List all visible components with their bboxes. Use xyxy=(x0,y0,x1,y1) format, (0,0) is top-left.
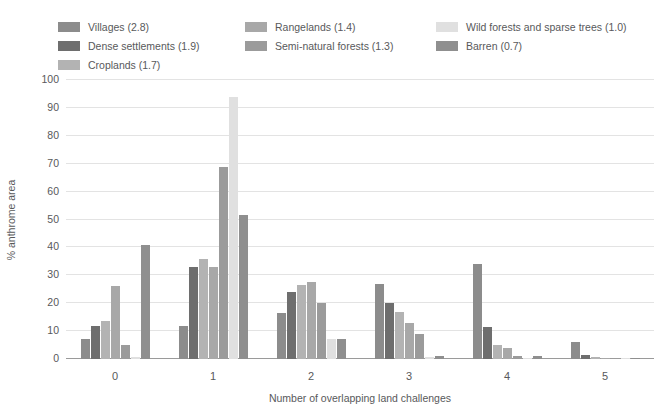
bar xyxy=(581,355,590,359)
bar-chart-figure: Villages (2.8) Dense settlements (1.9) C… xyxy=(0,0,672,416)
legend-label-villages: Villages (2.8) xyxy=(88,21,149,33)
bar xyxy=(141,245,150,359)
x-tick-label: 0 xyxy=(95,370,135,382)
bar-group: 0 xyxy=(66,80,164,359)
bar xyxy=(219,167,228,360)
bar xyxy=(435,356,444,359)
legend-label-wild-forests: Wild forests and sparse trees (1.0) xyxy=(466,21,626,33)
legend-swatch-dense-settlements xyxy=(58,41,80,51)
bar xyxy=(189,267,198,359)
y-tick-label: 100 xyxy=(41,74,59,85)
legend-item-wild-forests: Wild forests and sparse trees (1.0) xyxy=(436,18,626,35)
legend-label-croplands: Croplands (1.7) xyxy=(88,59,160,71)
bar xyxy=(239,215,248,359)
bar xyxy=(621,358,630,359)
legend-swatch-semi-natural-forests xyxy=(245,41,267,51)
bar xyxy=(631,358,640,359)
legend-column-2: Rangelands (1.4) Semi-natural forests (1… xyxy=(245,18,393,56)
x-tick-label: 1 xyxy=(193,370,233,382)
bar xyxy=(405,323,414,359)
legend-item-barren: Barren (0.7) xyxy=(436,37,626,54)
bar xyxy=(297,285,306,359)
bar xyxy=(317,303,326,359)
bar xyxy=(533,356,542,359)
legend-item-dense-settlements: Dense settlements (1.9) xyxy=(58,37,199,54)
legend-swatch-barren xyxy=(436,41,458,51)
legend-label-semi-natural-forests: Semi-natural forests (1.3) xyxy=(275,40,393,52)
bar-group: 3 xyxy=(360,80,458,359)
y-tick-label: 90 xyxy=(47,101,59,112)
legend-column-3: Wild forests and sparse trees (1.0) Barr… xyxy=(436,18,626,56)
legend-column-1: Villages (2.8) Dense settlements (1.9) C… xyxy=(58,18,199,75)
bar xyxy=(121,345,130,359)
legend-swatch-croplands xyxy=(58,60,80,70)
y-tick-label: 70 xyxy=(47,157,59,168)
bar xyxy=(503,348,512,359)
x-tick-label: 4 xyxy=(487,370,527,382)
legend-swatch-rangelands xyxy=(245,22,267,32)
x-tick-label: 3 xyxy=(389,370,429,382)
bar xyxy=(307,282,316,359)
bar xyxy=(523,358,532,359)
y-tick-label: 80 xyxy=(47,129,59,140)
bar-group: 5 xyxy=(556,80,654,359)
bar xyxy=(81,339,90,359)
chart-legend: Villages (2.8) Dense settlements (1.9) C… xyxy=(58,18,658,70)
bar xyxy=(131,357,140,359)
y-tick-label: 30 xyxy=(47,269,59,280)
bar xyxy=(209,267,218,359)
y-tick-label: 60 xyxy=(47,185,59,196)
y-axis-title-text: % anthrome area xyxy=(5,179,17,260)
bar xyxy=(375,284,384,359)
legend-item-rangelands: Rangelands (1.4) xyxy=(245,18,393,35)
bar xyxy=(287,292,296,359)
bar xyxy=(199,259,208,359)
bar xyxy=(483,327,492,359)
y-tick-label: 20 xyxy=(47,297,59,308)
bar xyxy=(101,321,110,359)
bar xyxy=(513,356,522,359)
legend-item-villages: Villages (2.8) xyxy=(58,18,199,35)
y-tick-label: 0 xyxy=(53,353,59,364)
y-tick-label: 10 xyxy=(47,325,59,336)
bar-group: 4 xyxy=(458,80,556,359)
bar xyxy=(91,326,100,359)
bar xyxy=(591,357,600,359)
x-tick-label: 2 xyxy=(291,370,331,382)
bar xyxy=(473,264,482,359)
bar-group: 2 xyxy=(262,80,360,359)
bar xyxy=(229,97,238,359)
x-axis-title: Number of overlapping land challenges xyxy=(66,392,654,404)
bar xyxy=(179,326,188,359)
bar-group: 1 xyxy=(164,80,262,359)
legend-swatch-wild-forests xyxy=(436,22,458,32)
y-tick-label: 50 xyxy=(47,213,59,224)
bar xyxy=(395,312,404,359)
x-tick-label: 5 xyxy=(585,370,625,382)
bar xyxy=(571,342,580,359)
bar xyxy=(111,286,120,359)
legend-item-croplands: Croplands (1.7) xyxy=(58,56,199,73)
bar xyxy=(493,345,502,359)
y-axis-title: % anthrome area xyxy=(4,80,18,359)
legend-label-dense-settlements: Dense settlements (1.9) xyxy=(88,40,199,52)
bar-groups: 012345 xyxy=(66,80,654,359)
bar xyxy=(415,334,424,359)
legend-item-semi-natural-forests: Semi-natural forests (1.3) xyxy=(245,37,393,54)
legend-swatch-villages xyxy=(58,22,80,32)
y-tick-label: 40 xyxy=(47,241,59,252)
legend-label-rangelands: Rangelands (1.4) xyxy=(275,21,356,33)
bar xyxy=(337,339,346,359)
legend-label-barren: Barren (0.7) xyxy=(466,40,522,52)
bar xyxy=(277,313,286,359)
bar xyxy=(611,358,620,359)
bar xyxy=(601,358,610,359)
plot-area: 0102030405060708090100 012345 xyxy=(66,80,654,359)
bar xyxy=(425,357,434,359)
bar xyxy=(385,303,394,359)
bar xyxy=(327,339,336,359)
